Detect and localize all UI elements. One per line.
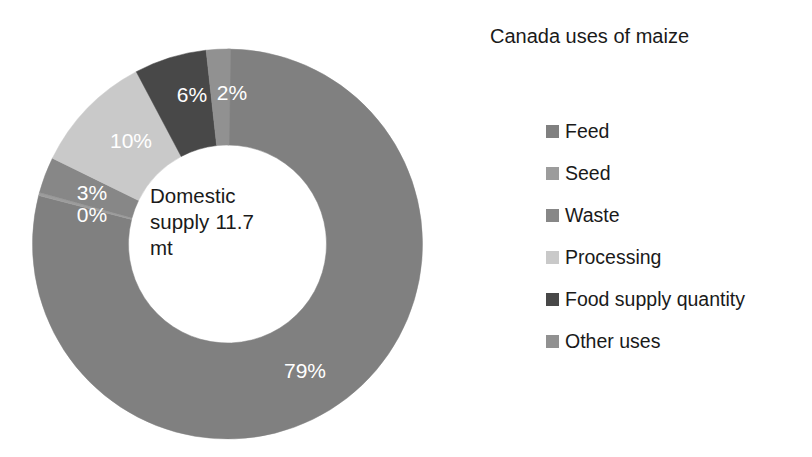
slice-label-food-supply-quantity: 6%	[177, 83, 207, 106]
legend-swatch-icon	[546, 209, 559, 222]
legend-item-label: Processing	[565, 246, 661, 269]
donut-chart: 79%0%3%10%6%2% Domesticsupply 11.7mt	[0, 0, 460, 457]
legend-item-label: Waste	[565, 204, 620, 227]
slice-label-feed: 79%	[284, 359, 326, 382]
legend-item-waste[interactable]: Waste	[546, 194, 806, 236]
donut-chart-svg: 79%0%3%10%6%2%	[0, 0, 460, 457]
legend-swatch-icon	[546, 335, 559, 348]
page-title: Canada uses of maize	[490, 25, 689, 48]
legend-item-label: Other uses	[565, 330, 660, 353]
legend-swatch-icon	[546, 251, 559, 264]
legend-item-label: Food supply quantity	[565, 288, 745, 311]
legend-item-seed[interactable]: Seed	[546, 152, 806, 194]
slice-label-other-uses: 2%	[217, 81, 247, 104]
legend-item-food-supply-quantity[interactable]: Food supply quantity	[546, 278, 806, 320]
chart-legend: FeedSeedWasteProcessingFood supply quant…	[546, 110, 806, 362]
legend-swatch-icon	[546, 125, 559, 138]
slice-label-waste: 3%	[77, 181, 107, 204]
legend-item-other-uses[interactable]: Other uses	[546, 320, 806, 362]
legend-swatch-icon	[546, 167, 559, 180]
legend-swatch-icon	[546, 293, 559, 306]
chart-right-panel: Canada uses of maize FeedSeedWasteProces…	[460, 0, 812, 457]
chart-page: 79%0%3%10%6%2% Domesticsupply 11.7mt Can…	[0, 0, 812, 457]
legend-item-processing[interactable]: Processing	[546, 236, 806, 278]
legend-item-feed[interactable]: Feed	[546, 110, 806, 152]
slice-label-seed: 0%	[77, 203, 107, 226]
donut-slice-group	[33, 49, 423, 439]
slice-label-processing: 10%	[110, 129, 152, 152]
legend-item-label: Feed	[565, 120, 609, 143]
legend-item-label: Seed	[565, 162, 611, 185]
